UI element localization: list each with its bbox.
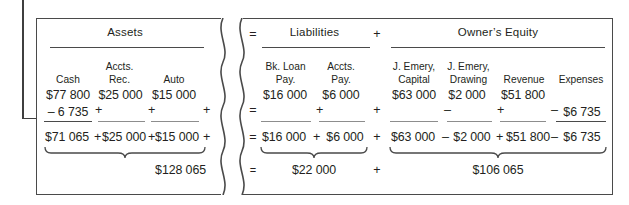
assets-col-0-opening: $77 800 (42, 89, 94, 101)
liabilities-col-1-total: $6 000 (320, 131, 370, 143)
assets-col-0-sum-rule (44, 121, 92, 122)
liabilities-col-0-label-line2: Pay. (258, 75, 313, 85)
equity-col-3-label-line2: Expenses (553, 75, 609, 85)
equity-col-1-label-line1: J. Emery, (441, 62, 496, 72)
assets-total-operator-2: + (203, 131, 210, 144)
equity-operator-1: + (497, 104, 504, 117)
plus-sign-grand-total-row: + (370, 164, 384, 177)
assets-header-rule (50, 47, 204, 48)
liabilities-subtotal: $22 000 (262, 164, 366, 176)
equity-col-2-sum-rule (500, 121, 546, 122)
liabilities-operator-0: + (316, 104, 323, 117)
equity-col-1-label-line2: Drawing (441, 75, 496, 85)
assets-col-1-total: $25 000 (99, 131, 149, 143)
assets-col-2-sum-rule (151, 121, 199, 122)
equity-col-0-sum-rule (390, 121, 438, 122)
equity-col-2-label-line2: Revenue (499, 75, 549, 85)
plus-sign-total-row: + (370, 131, 384, 144)
equity-col-2-total: $51 800 (502, 131, 554, 143)
owners-equity-header-rule (391, 47, 605, 48)
plus-sign-header: + (370, 28, 384, 41)
assets-col-0-change: – 6 735 (42, 106, 94, 118)
assets-operator-1: + (148, 104, 155, 117)
assets-col-2-opening: $15 000 (147, 89, 201, 101)
equals-sign-operator-row: = (246, 104, 260, 117)
owners-equity-subtotal: $106 065 (391, 164, 605, 176)
transaction-arrow-shaft-vertical (22, 0, 24, 119)
assets-operator-0: + (95, 104, 102, 117)
liabilities-col-1-opening: $6 000 (314, 89, 368, 101)
liabilities-col-0-sum-rule (261, 121, 311, 122)
equity-col-1-total: $2 000 (448, 131, 496, 143)
equity-col-2-opening: $51 800 (496, 89, 550, 101)
liabilities-col-0-label-line1: Bk. Loan (258, 62, 313, 72)
assets-header: Assets (36, 27, 214, 39)
plus-sign-operator-row: + (370, 104, 384, 117)
liabilities-brace-icon (260, 146, 368, 159)
equity-col-0-total: $63 000 (386, 131, 440, 143)
equity-col-1-sum-rule (447, 121, 492, 122)
owners-equity-brace-icon (389, 146, 607, 159)
assets-col-1-label-line1: Accts. (93, 62, 146, 72)
assets-brace-icon (44, 146, 206, 159)
assets-subtotal: $128 065 (110, 164, 206, 176)
assets-col-0-label-line2: Cash (44, 75, 92, 85)
liabilities-header: Liabilities (262, 27, 367, 39)
owners-equity-header: Owner’s Equity (391, 27, 605, 39)
liabilities-col-0-opening: $16 000 (257, 89, 313, 101)
assets-col-1-opening: $25 000 (94, 89, 147, 101)
assets-col-2-label-line2: Auto (148, 75, 200, 85)
assets-col-1-sum-rule (98, 121, 145, 122)
equity-col-0-label-line1: J. Emery, (388, 62, 440, 72)
equity-col-0-label-line2: Capital (388, 75, 440, 85)
assets-col-2-total: $15 000 (152, 131, 202, 143)
equity-col-3-sum-rule (556, 121, 606, 122)
equity-col-0-opening: $63 000 (387, 89, 441, 101)
equity-col-3-change: $6 735 (556, 106, 608, 118)
equity-col-1-opening: $2 000 (443, 89, 491, 101)
liabilities-col-1-label-line2: Pay. (315, 75, 367, 85)
accounting-equation-figure: Assets Cash Accts. Rec. Auto $77 800 $25… (0, 0, 629, 205)
assets-col-0-total: $71 065 (40, 131, 94, 143)
equals-sign-header: = (246, 28, 260, 41)
liabilities-col-1-sum-rule (319, 121, 365, 122)
liabilities-col-1-label-line1: Accts. (315, 62, 367, 72)
page-break-wave-left (214, 18, 232, 195)
liabilities-header-rule (262, 47, 370, 48)
equity-operator-0: – (444, 104, 451, 117)
assets-operator-2: + (203, 104, 210, 117)
equals-sign-grand-total-row: = (246, 165, 260, 176)
liabilities-col-0-total: $16 000 (256, 131, 312, 143)
equity-col-3-total: $6 735 (556, 131, 608, 143)
assets-col-1-label-line2: Rec. (93, 75, 146, 85)
